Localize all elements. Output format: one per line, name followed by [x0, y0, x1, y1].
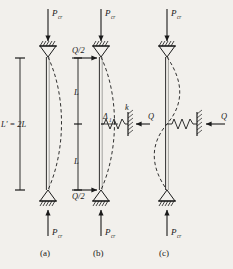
figure-container: P cr P cr L' = 2L (a) [0, 0, 233, 269]
spring-stiffness-label: k [125, 103, 129, 112]
panel-c-caption: (c) [159, 248, 169, 258]
panel-a-column [46, 57, 49, 190]
panel-b-bottom-load-subscript: cr [111, 233, 116, 239]
panel-c-top-pin-support [158, 41, 176, 57]
panel-b-lower-segment-label: L [73, 156, 79, 166]
panel-b-column [99, 57, 102, 190]
panel-a-top-pin-support [39, 41, 57, 57]
panel-a-top-load-subscript: cr [58, 14, 63, 20]
panel-b: P cr P cr Q/2 Q/2 L L Δ 1 (b) [72, 8, 118, 258]
left-spring-assembly [101, 110, 150, 136]
panel-b-bottom-pin-support [92, 190, 110, 206]
panel-b-top-load-label: P [104, 8, 111, 18]
left-spring-force-label: Q [148, 112, 154, 121]
panel-b-top-lateral-load-label: Q/2 [72, 46, 85, 55]
panel-b-dimension-line [74, 58, 82, 190]
panel-b-bottom-lateral-load-label: Q/2 [72, 192, 85, 201]
panel-a-buckled-shape [48, 57, 62, 190]
panel-b-top-pin-support [92, 41, 110, 57]
panel-b-bottom-load-label: P [104, 227, 111, 237]
right-spring-icon [167, 119, 197, 129]
panel-c-top-load-subscript: cr [177, 14, 182, 20]
panel-a-bottom-load-subscript: cr [58, 233, 63, 239]
panel-c-bottom-load-label: P [170, 227, 177, 237]
panel-b-deflection-subscript: 1 [109, 117, 112, 123]
panel-b-caption: (b) [93, 248, 104, 258]
panel-a-dimension-label: L' = 2L [0, 120, 26, 129]
panel-c-bottom-load-subscript: cr [177, 233, 182, 239]
panel-a-bottom-pin-support [39, 190, 57, 206]
panel-a-bottom-load-label: P [51, 227, 58, 237]
panel-c-top-load-label: P [170, 8, 177, 18]
right-spring-assembly [167, 110, 225, 136]
panel-a-caption: (a) [40, 248, 50, 258]
panel-a: P cr P cr L' = 2L (a) [0, 8, 63, 258]
panel-b-upper-segment-label: L [73, 87, 79, 97]
panel-a-top-load-label: P [51, 8, 58, 18]
panel-b-top-load-subscript: cr [111, 14, 116, 20]
panel-b-deflection-label: Δ [102, 112, 108, 121]
panel-c: P cr P cr k Q Q (c) [101, 8, 227, 258]
engineering-diagram: P cr P cr L' = 2L (a) [0, 0, 233, 269]
right-spring-force-label: Q [221, 112, 227, 121]
panel-c-bottom-pin-support [158, 190, 176, 206]
